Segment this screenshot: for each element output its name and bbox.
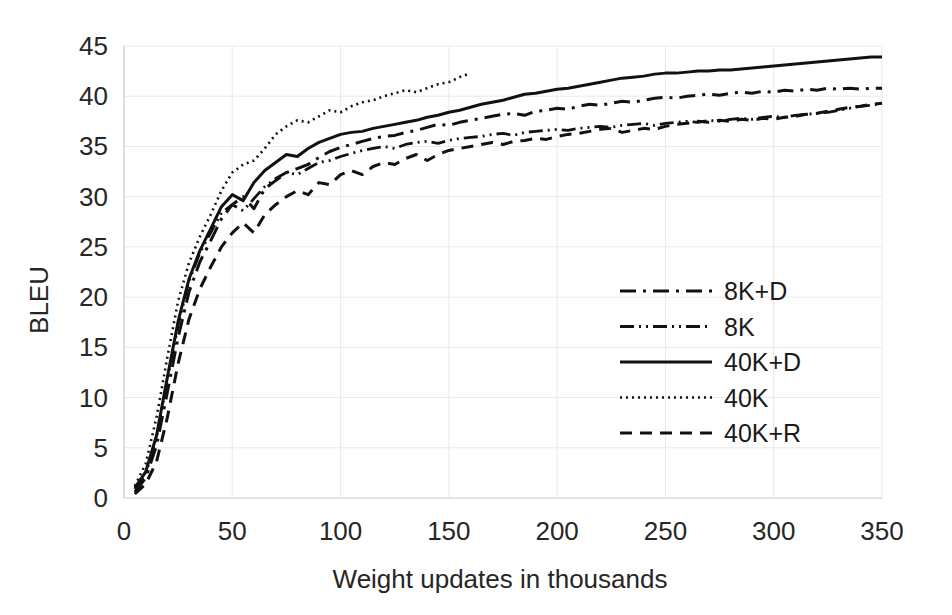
legend-label-40k: 40K	[724, 384, 769, 412]
x-tick-label: 150	[427, 516, 470, 546]
legend-label-8k-d: 8K+D	[724, 277, 787, 305]
y-axis-title: BLEU	[24, 266, 54, 334]
y-tick-label: 35	[79, 131, 108, 161]
chart-canvas: 454035302520151050 050100150200250300350…	[0, 0, 952, 615]
y-tick-label: 0	[94, 483, 108, 513]
y-tick-label: 20	[79, 282, 108, 312]
y-tick-label: 30	[79, 182, 108, 212]
y-tick-label: 45	[79, 31, 108, 61]
x-tick-label: 100	[319, 516, 362, 546]
y-tick-label: 10	[79, 383, 108, 413]
x-tick-label: 200	[535, 516, 578, 546]
x-tick-label: 300	[752, 516, 795, 546]
legend-label-8k: 8K	[724, 313, 755, 341]
x-tick-label: 250	[644, 516, 687, 546]
x-tick-label: 350	[860, 516, 903, 546]
legend-label-40k-r: 40K+R	[724, 419, 801, 447]
x-axis-title: Weight updates in thousands	[333, 564, 668, 594]
x-tick-label: 0	[117, 516, 131, 546]
y-tick-label: 40	[79, 81, 108, 111]
x-tick-label: 50	[218, 516, 247, 546]
y-tick-label: 25	[79, 232, 108, 262]
bleu-line-chart: 454035302520151050 050100150200250300350…	[0, 0, 952, 615]
y-tick-label: 15	[79, 332, 108, 362]
chart-background	[0, 0, 952, 615]
legend-label-40k-d: 40K+D	[724, 348, 801, 376]
y-tick-label: 5	[94, 433, 108, 463]
